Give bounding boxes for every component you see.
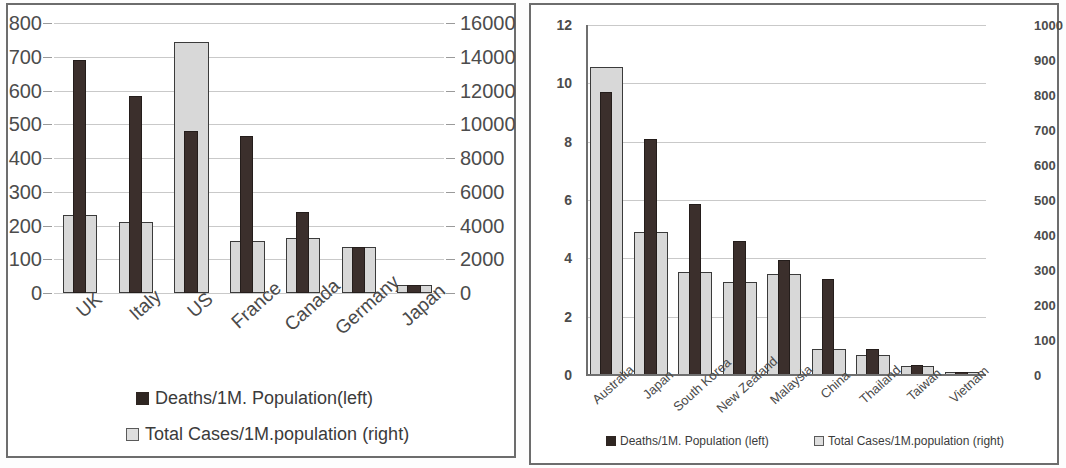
axis-tick-label: 10 [556,76,572,90]
axis-tick-label: 500 [9,114,42,134]
bar-deaths[interactable] [296,212,309,293]
left-chart-legend-deaths: Deaths/1M. Population(left) [136,388,373,409]
bar-group[interactable] [165,23,221,293]
axis-tick-label: 1000 [1034,19,1063,32]
bar-group[interactable] [808,25,852,375]
axis-tick-label: 500 [1034,194,1056,207]
bar-deaths[interactable] [644,139,656,375]
bar-group[interactable] [110,23,166,293]
axis-tick-label: 700 [9,47,42,67]
bar-deaths[interactable] [822,279,834,375]
axis-tick-label: 200 [1034,299,1056,312]
bar-group[interactable] [630,25,674,375]
axis-tick-mark [446,23,455,24]
bar-deaths[interactable] [184,131,197,293]
bar-deaths[interactable] [689,204,701,375]
axis-tick-label: 16000 [460,13,516,33]
axis-tick-label: 900 [1034,54,1056,67]
bar-group[interactable] [853,25,897,375]
axis-tick-label: 700 [1034,124,1056,137]
bar-group[interactable] [675,25,719,375]
axis-tick-label: 4000 [460,216,505,236]
legend-swatch-deaths-icon [606,436,616,446]
right-chart-plot-area: 024681012 010020030040050060070080090010… [586,25,986,375]
axis-tick-label: 400 [9,148,42,168]
left-chart-category-labels: UKItalyUSFranceCanadaGermanyJapan [54,297,444,298]
axis-tick-mark [43,192,52,193]
category-label-slot: US [165,297,221,298]
axis-tick-label: 2000 [460,249,505,269]
bar-group[interactable] [388,23,444,293]
legend-swatch-deaths-icon [136,392,149,405]
axis-tick-mark [446,124,455,125]
axis-tick-label: 400 [1034,229,1056,242]
right-chart-bars [586,25,986,375]
bar-group[interactable] [333,23,389,293]
category-label-slot: Canada [277,297,333,298]
category-label-slot: New Zealand [719,379,763,380]
axis-tick-label: 200 [9,216,42,236]
axis-tick-mark [446,259,455,260]
axis-tick-label: 0 [31,283,42,303]
axis-tick-mark [446,158,455,159]
axis-tick-mark [446,91,455,92]
legend-label-deaths: Deaths/1M. Population(left) [155,388,373,409]
bar-group[interactable] [221,23,277,293]
axis-tick-label: 100 [1034,334,1056,347]
axis-tick-label: 0 [460,283,471,303]
category-label-slot: Germany [333,297,389,298]
legend-swatch-cases-icon [126,428,139,441]
category-label-slot: South Korea [675,379,719,380]
bar-deaths[interactable] [352,247,365,293]
bar-deaths[interactable] [240,136,253,293]
left-chart-bars [54,23,444,293]
axis-tick-label: 12 [556,18,572,32]
category-label-slot: France [221,297,277,298]
category-label-slot: Australia [586,379,630,380]
axis-tick-label: 2 [564,310,572,324]
legend-label-cases: Total Cases/1M.population (right) [145,424,409,445]
axis-tick-label: 600 [9,81,42,101]
dual-chart-figure: 0100200300400500600700800 02000400060008… [0,0,1066,468]
axis-tick-mark [43,259,52,260]
bar-group[interactable] [54,23,110,293]
bar-group[interactable] [897,25,941,375]
right-chart-legend-cases: Total Cases/1M.population (right) [814,434,1004,448]
legend-swatch-cases-icon [814,436,824,446]
bar-group[interactable] [586,25,630,375]
category-label-slot: Thailand [853,379,897,380]
bar-group[interactable] [719,25,763,375]
axis-tick-mark [446,192,455,193]
category-label-slot: Taiwan [897,379,941,380]
category-label-slot: Vietnam [942,379,986,380]
axis-tick-label: 8 [564,135,572,149]
left-chart-plot-area: 0100200300400500600700800 02000400060008… [54,23,444,293]
asia-pacific-countries-chart-panel: 024681012 010020030040050060070080090010… [529,3,1059,465]
category-label-slot: Italy [110,297,166,298]
axis-tick-mark [43,91,52,92]
axis-tick-label: 4 [564,251,572,265]
right-chart-legend-deaths: Deaths/1M. Population (left) [606,434,769,448]
axis-tick-mark [43,57,52,58]
bar-group[interactable] [764,25,808,375]
axis-tick-label: 0 [1034,369,1041,382]
axis-tick-mark [446,57,455,58]
bar-deaths[interactable] [129,96,142,293]
axis-tick-label: 300 [9,182,42,202]
axis-tick-label: 6 [564,193,572,207]
bar-deaths[interactable] [73,60,86,293]
category-label-slot: Japan [388,297,444,298]
bar-deaths[interactable] [866,349,878,375]
axis-tick-label: 12000 [460,81,516,101]
bar-group[interactable] [277,23,333,293]
category-label-slot: Japan [630,379,674,380]
bar-group[interactable] [942,25,986,375]
bar-deaths[interactable] [600,92,612,375]
bar-deaths[interactable] [778,260,790,375]
bar-deaths[interactable] [733,241,745,375]
axis-tick-label: 10000 [460,114,516,134]
axis-tick-label: 6000 [460,182,505,202]
bar-deaths[interactable] [407,285,420,293]
axis-tick-label: 100 [9,249,42,269]
right-chart-category-labels: AustraliaJapanSouth KoreaNew ZealandMala… [586,379,986,380]
